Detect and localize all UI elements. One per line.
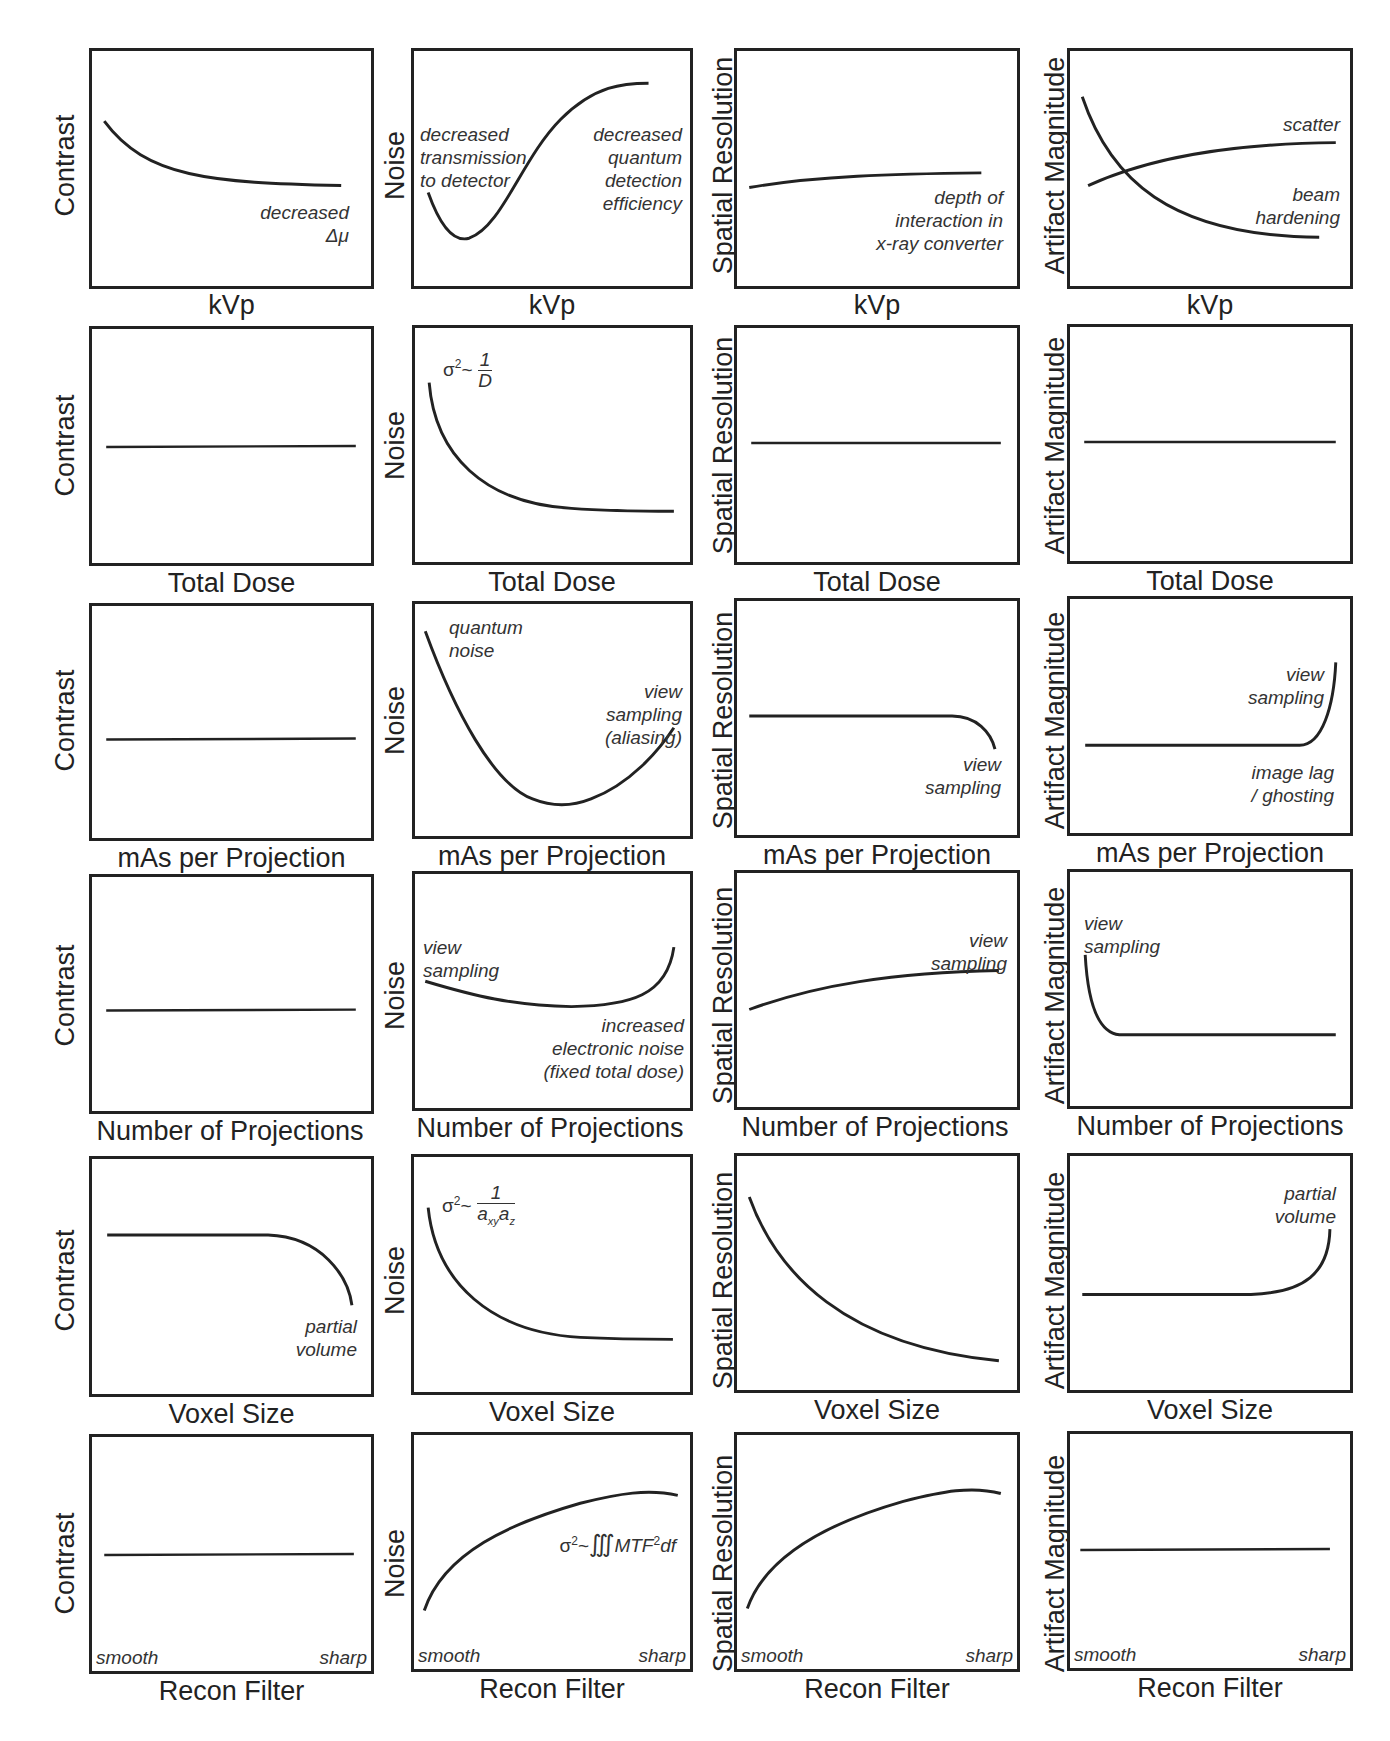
annotation-view-sampling: viewsampling [1084, 912, 1160, 958]
x-tick-sharp: sharp [319, 1647, 367, 1669]
plot-area: quantumnoise viewsampling(aliasing) [412, 601, 693, 839]
curve-flat [92, 606, 371, 838]
x-axis-label: kVp [734, 290, 1020, 321]
annotation-scatter: scatter [1283, 113, 1340, 136]
y-axis-label: Artifact Magnitude [1040, 1151, 1071, 1411]
plot-area: partialvolume [89, 1156, 374, 1397]
x-axis-label: Number of Projections [1050, 1111, 1370, 1142]
x-axis-label: Total Dose [1067, 566, 1353, 597]
plot-area: viewsampling increasedelectronic noise(f… [412, 871, 693, 1111]
x-axis-label: Voxel Size [734, 1395, 1020, 1426]
annotation-electronic-noise: increasedelectronic noise(fixed total do… [544, 1014, 684, 1083]
x-axis-label: Total Dose [89, 568, 374, 599]
curve-flat [1070, 327, 1350, 561]
x-axis-label: mAs per Projection [89, 843, 374, 874]
annotation-left: decreasedtransmissionto detector [420, 123, 527, 192]
plot-area [734, 325, 1020, 565]
y-axis-label: Artifact Magnitude [1040, 866, 1071, 1126]
annotation: decreasedΔμ [260, 201, 349, 247]
y-axis-label: Contrast [50, 1191, 81, 1371]
curve-decreasing [92, 51, 371, 286]
plot-area: viewsampling [734, 598, 1020, 838]
plot-area: viewsampling image lag/ ghosting [1067, 596, 1353, 836]
curve-flat [737, 328, 1017, 562]
plot-area: σ2~ 1axyaz [411, 1154, 693, 1395]
y-axis-label: Contrast [50, 76, 81, 256]
y-axis-label: Artifact Magnitude [1040, 1434, 1071, 1694]
y-axis-label: Noise [380, 1509, 411, 1619]
plot-area: smooth sharp [89, 1434, 374, 1674]
formula-sigma-sq-inverse-voxel: σ2~ 1axyaz [442, 1183, 515, 1231]
plot-area: σ2~∭MTF2df smooth sharp [411, 1432, 693, 1672]
curve-flat-then-drop [737, 601, 1017, 835]
annotation-partial-volume: partialvolume [1275, 1182, 1336, 1228]
y-axis-label: Noise [380, 391, 411, 501]
x-tick-smooth: smooth [418, 1645, 480, 1667]
plot-area: smooth sharp [1067, 1431, 1353, 1671]
y-axis-label: Contrast [50, 356, 81, 536]
annotation-view-sampling: viewsampling(aliasing) [605, 680, 682, 749]
curve-increasing-saturating [737, 873, 1017, 1107]
annotation-beam-hardening: beamhardening [1255, 183, 1340, 229]
y-axis-label: Artifact Magnitude [1040, 316, 1071, 576]
curve-flat [92, 1437, 371, 1671]
annotation-view-sampling: viewsampling [925, 753, 1001, 799]
x-axis-label: Recon Filter [734, 1674, 1020, 1705]
plot-area: decreasedtransmissionto detector decreas… [411, 48, 693, 289]
x-axis-label: Total Dose [734, 567, 1020, 598]
annotation-view-sampling: viewsampling [1248, 663, 1324, 709]
y-axis-label: Artifact Magnitude [1040, 591, 1071, 851]
x-axis-label: kVp [1067, 290, 1353, 321]
plot-area: σ2~ 1D [412, 325, 693, 565]
x-axis-label: Recon Filter [411, 1674, 693, 1705]
curve-drop-then-flat [1070, 872, 1350, 1106]
x-axis-label: Total Dose [411, 567, 693, 598]
annotation-quantum-noise: quantumnoise [449, 616, 523, 662]
formula-sigma-sq-integral-mtf: σ2~∭MTF2df [560, 1530, 677, 1558]
x-axis-label: Voxel Size [89, 1399, 374, 1430]
x-axis-label: kVp [89, 290, 374, 321]
x-axis-label: Number of Projections [395, 1113, 705, 1144]
annotation: depth ofinteraction inx-ray converter [876, 186, 1003, 255]
annotation-view-sampling: viewsampling [931, 929, 1007, 975]
x-axis-label: Recon Filter [1067, 1673, 1353, 1704]
x-axis-label: mAs per Projection [1067, 838, 1353, 869]
x-axis-label: mAs per Projection [734, 840, 1020, 871]
plot-area [1067, 324, 1353, 564]
curve-flat [92, 329, 371, 563]
plot-area: decreasedΔμ [89, 48, 374, 289]
y-axis-label: Contrast [50, 906, 81, 1086]
x-axis-label: Number of Projections [720, 1112, 1030, 1143]
curves-scatter-beam-hardening [1070, 51, 1350, 286]
y-axis-label: Noise [380, 666, 411, 776]
x-axis-label: kVp [411, 290, 693, 321]
y-axis-label: Noise [380, 941, 411, 1051]
curve-flat [92, 877, 371, 1111]
x-tick-smooth: smooth [1074, 1644, 1136, 1666]
plot-area [89, 326, 374, 566]
curve-decreasing [737, 1156, 1017, 1390]
x-axis-label: Recon Filter [89, 1676, 374, 1707]
x-tick-smooth: smooth [741, 1645, 803, 1667]
x-axis-label: Number of Projections [70, 1116, 390, 1147]
x-tick-sharp: sharp [638, 1645, 686, 1667]
annotation-partial-volume: partialvolume [296, 1315, 357, 1361]
x-tick-sharp: sharp [965, 1645, 1013, 1667]
y-axis-label: Contrast [50, 1474, 81, 1654]
annotation-image-lag: image lag/ ghosting [1252, 761, 1334, 807]
annotation-view-sampling: viewsampling [423, 936, 499, 982]
plot-area [734, 1153, 1020, 1393]
plot-area: smooth sharp [734, 1432, 1020, 1672]
x-tick-sharp: sharp [1298, 1644, 1346, 1666]
curve-flat [1070, 1434, 1350, 1668]
x-axis-label: mAs per Projection [411, 841, 693, 872]
plot-area: depth ofinteraction inx-ray converter [734, 48, 1020, 289]
formula-sigma-sq-inverse-dose: σ2~ 1D [443, 350, 492, 391]
plot-area: partialvolume [1067, 1153, 1353, 1393]
plot-area: scatter beamhardening [1067, 48, 1353, 289]
x-axis-label: Voxel Size [1067, 1395, 1353, 1426]
y-axis-label: Artifact Magnitude [1040, 36, 1071, 296]
plot-area: viewsampling [734, 870, 1020, 1110]
plot-area [89, 603, 374, 841]
y-axis-label: Noise [380, 1226, 411, 1336]
